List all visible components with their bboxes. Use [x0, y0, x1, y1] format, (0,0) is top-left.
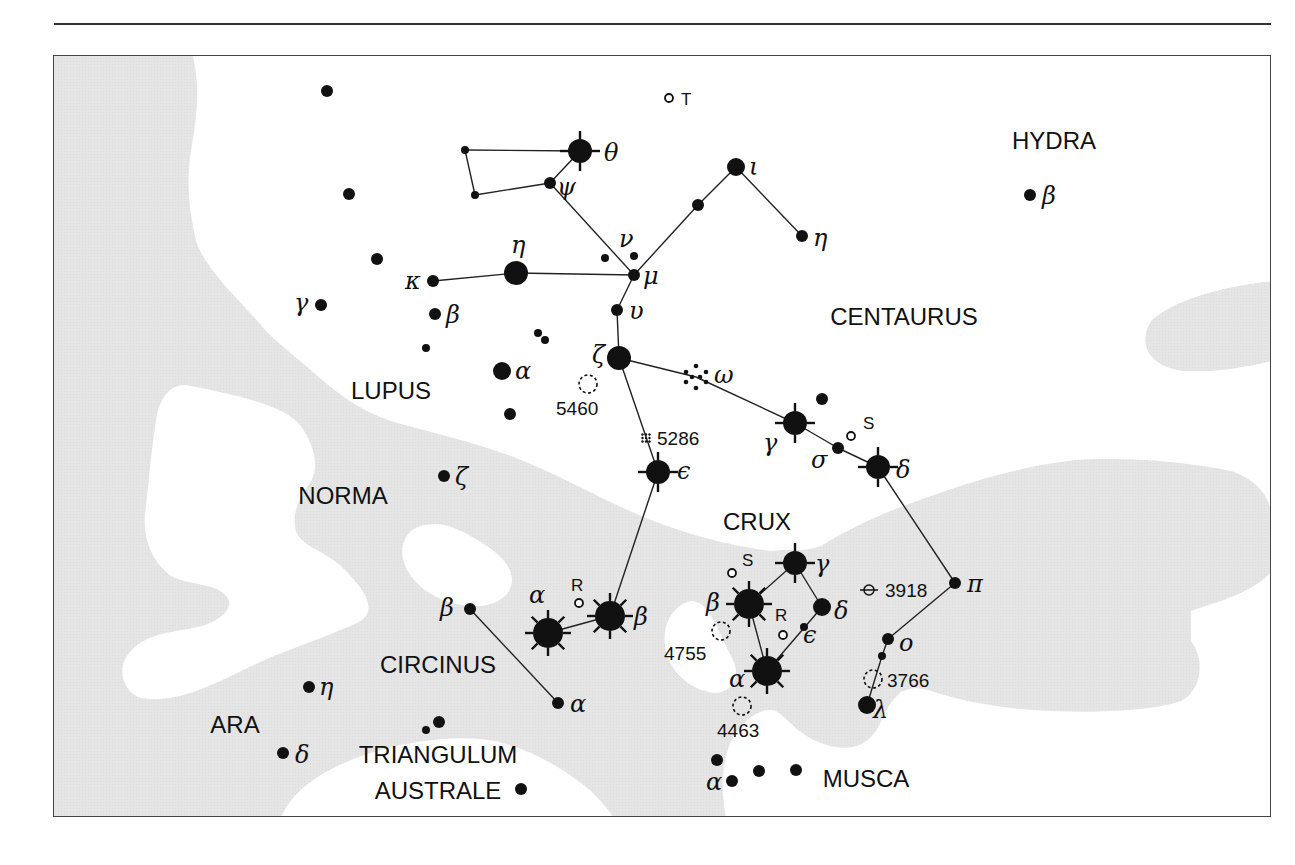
star-lup-d1 [321, 85, 333, 97]
star-label: γ [815, 550, 830, 578]
star-cen-zeta [607, 346, 631, 370]
star-label: η [813, 224, 828, 252]
star-ara-delta [277, 747, 289, 759]
deep-sky-label: 5460 [556, 398, 598, 419]
star-cen-c1 [816, 393, 828, 405]
deep-sky-label: 3766 [887, 670, 929, 691]
star-label: ϵ [677, 457, 690, 485]
star-label: β [439, 594, 454, 622]
star-cen-pi [949, 577, 961, 589]
star-lup-d4 [422, 344, 430, 352]
star-ara-eta [303, 681, 315, 693]
deep-sky-label: 4755 [664, 643, 706, 664]
constellation-label-australe: AUSTRALE [375, 777, 502, 804]
variable-star-T [665, 94, 673, 102]
star-cir-beta [464, 603, 476, 615]
star-cen-o2 [878, 652, 886, 660]
star-label: υ [629, 297, 644, 325]
constellation-label-centaurus: CENTAURUS [830, 303, 978, 330]
star-label: π [966, 570, 984, 598]
star-nor-zeta [438, 470, 450, 482]
constellation-label-ara: ARA [210, 711, 259, 738]
star-label: η [511, 231, 526, 259]
variable-star-label: R [571, 576, 583, 595]
variable-star-label: T [681, 90, 691, 109]
variable-star-label: S [742, 551, 753, 570]
constellation-label-norma: NORMA [298, 482, 387, 509]
star-tra-1 [433, 716, 445, 728]
constellation-label-triangulum: TRIANGULUM [359, 741, 518, 768]
star-lup-d6 [541, 336, 549, 344]
star-tra-3 [515, 783, 527, 795]
star-cen-alpha [525, 610, 571, 656]
star-label: ι [749, 153, 758, 181]
star-lup-d7 [504, 408, 516, 420]
star-hya-beta [1024, 189, 1036, 201]
star-cen-eta [796, 230, 808, 242]
star-tra-2 [422, 726, 430, 734]
star-lup-beta [429, 308, 441, 320]
star-cru-beta [726, 581, 772, 627]
star-cen-sigma [832, 442, 844, 454]
star-cen-b1 [692, 199, 704, 211]
star-label: ω [714, 361, 734, 389]
deep-sky-5286 [641, 433, 650, 442]
variable-star-label: S [863, 414, 874, 433]
star-label: ζ [592, 341, 607, 369]
star-label: ψ [557, 173, 577, 201]
star-label: σ [811, 446, 828, 474]
star-cen-nu2 [601, 254, 609, 262]
star-label: ϵ [803, 621, 816, 649]
star-label: λ [872, 696, 888, 724]
star-label: α [529, 581, 545, 609]
star-mus-3 [790, 764, 802, 776]
star-cen-beta [587, 593, 633, 639]
star-lup-gamma [315, 299, 327, 311]
deep-sky-label: 4463 [717, 720, 759, 741]
variable-star-S [847, 432, 855, 440]
star-label: o [899, 629, 913, 657]
star-lup-alpha [493, 362, 511, 380]
star-mus-2 [753, 765, 765, 777]
variable-star-R [779, 631, 787, 639]
top-rule [54, 23, 1271, 25]
star-label: β [633, 603, 648, 631]
star-cen-mu [628, 269, 640, 281]
variable-star-S [728, 569, 736, 577]
star-label: α [729, 665, 745, 693]
star-label: δ [896, 456, 910, 484]
constellation-label-lupus: LUPUS [351, 377, 431, 404]
star-mus-1 [711, 754, 723, 766]
star-lup-eta [504, 261, 528, 285]
star-label: δ [834, 597, 848, 625]
star-chart: θψιηνμυζωγσδϵπoλαβγβδϵαηκβγαβζβαηδα54605… [54, 56, 1271, 817]
star-label: β [705, 589, 720, 617]
star-label: θ [604, 139, 619, 167]
star-label: β [445, 301, 460, 329]
star-label: ζ [455, 463, 470, 491]
star-label: α [570, 690, 586, 718]
star-lup-d5 [534, 329, 542, 337]
star-label: κ [404, 267, 421, 295]
star-mus-alpha [726, 775, 738, 787]
star-cen-a1 [461, 146, 469, 154]
deep-sky-label: 5286 [657, 428, 699, 449]
deep-sky-label: 3918 [885, 580, 927, 601]
star-cen-upsilon [611, 304, 623, 316]
star-cen-a2 [471, 191, 479, 199]
constellation-label-crux: CRUX [723, 508, 791, 535]
star-label: δ [295, 741, 309, 769]
star-cir-alpha [552, 697, 564, 709]
constellation-label-hydra: HYDRA [1012, 127, 1096, 154]
star-label: β [1041, 182, 1056, 210]
star-cru-delta [813, 598, 831, 616]
variable-star-R [575, 599, 583, 607]
constellation-label-musca: MUSCA [823, 765, 910, 792]
star-label: α [515, 357, 531, 385]
star-lup-d2 [343, 188, 355, 200]
star-label: γ [763, 429, 778, 457]
star-label: μ [643, 262, 659, 290]
star-cen-nu [630, 252, 638, 260]
star-cen-psi [544, 177, 556, 189]
star-cen-o [882, 633, 894, 645]
